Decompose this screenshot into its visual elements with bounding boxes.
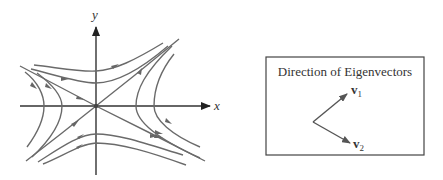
eigenlines — [20, 39, 205, 161]
eigenvector-legend-box: Direction of Eigenvectors v1 v2 — [266, 57, 424, 155]
x-axis-label: x — [213, 98, 220, 113]
origin-point — [94, 104, 98, 108]
y-axis-label: y — [90, 7, 98, 22]
arrow-icon — [155, 130, 163, 134]
saddle-phase-portrait: x y — [0, 0, 443, 180]
trajectory — [43, 143, 186, 165]
upper-trajectories — [31, 43, 168, 83]
trajectory — [25, 72, 44, 147]
arrow-icon — [165, 118, 172, 124]
axes: x y — [20, 7, 220, 175]
legend-title: Direction of Eigenvectors — [278, 64, 412, 79]
arrow-icon — [71, 120, 79, 127]
arrow-icon — [76, 96, 85, 100]
trajectory — [34, 43, 163, 71]
